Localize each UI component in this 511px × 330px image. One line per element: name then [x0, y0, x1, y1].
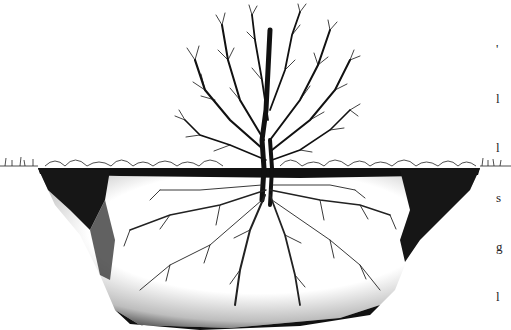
- caption-line: g: [496, 239, 511, 256]
- caption-line: l: [496, 91, 511, 108]
- ground-surface: [0, 157, 511, 166]
- caption-line: l: [496, 140, 511, 157]
- caption-line: s: [496, 190, 511, 207]
- caption-line: l: [496, 289, 511, 306]
- clipped-caption-text: ' l l s g l: [496, 8, 511, 322]
- caption-line: ': [496, 41, 511, 58]
- illustration: [0, 0, 511, 330]
